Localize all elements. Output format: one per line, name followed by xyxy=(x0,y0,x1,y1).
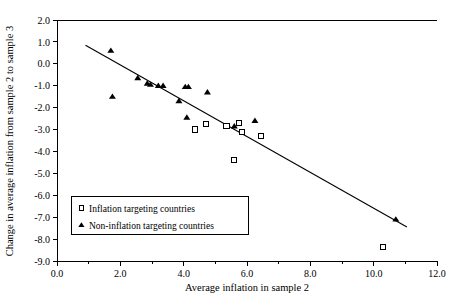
data-point-square xyxy=(232,158,237,163)
y-tick-labels: 2.01.00.0-1.0-2.0-3.0-4.0-5.0-6.0-7.0-8.… xyxy=(34,15,50,267)
data-point-square xyxy=(259,134,264,139)
x-tick-label: 10.0 xyxy=(365,268,383,279)
y-tick-label: -4.0 xyxy=(34,146,50,157)
x-tick-label: 12.0 xyxy=(428,268,446,279)
x-tick-label: 4.0 xyxy=(177,268,190,279)
x-axis-ticks xyxy=(57,261,437,266)
legend-entry-label: Inflation targeting countries xyxy=(89,204,195,214)
x-tick-label: 2.0 xyxy=(114,268,127,279)
data-point-square xyxy=(381,244,386,249)
y-tick-label: -5.0 xyxy=(34,168,50,179)
data-point-square xyxy=(224,124,229,129)
data-point-triangle xyxy=(183,114,190,119)
chart-figure: 2.01.00.0-1.0-2.0-3.0-4.0-5.0-6.0-7.0-8.… xyxy=(0,0,458,306)
y-tick-label: -2.0 xyxy=(34,102,50,113)
y-tick-label: -9.0 xyxy=(34,256,50,267)
y-tick-label: -6.0 xyxy=(34,190,50,201)
y-axis-ticks xyxy=(53,20,57,261)
data-point-triangle xyxy=(109,93,116,98)
x-tick-label: 8.0 xyxy=(304,268,317,279)
data-point-square xyxy=(203,121,208,126)
y-tick-label: -3.0 xyxy=(34,124,50,135)
data-point-triangle xyxy=(251,118,258,123)
x-tick-label: 0.0 xyxy=(51,268,64,279)
y-tick-label: 2.0 xyxy=(38,15,51,26)
y-tick-label: -1.0 xyxy=(34,80,50,91)
chart-legend: Inflation targeting countriesNon-inflati… xyxy=(71,196,248,234)
legend-marker-square xyxy=(79,206,84,211)
y-tick-label: 1.0 xyxy=(38,37,51,48)
x-tick-label: 6.0 xyxy=(241,268,254,279)
y-axis-title: Change in average inflation from sample … xyxy=(4,26,15,257)
y-tick-label: -8.0 xyxy=(34,234,50,245)
data-point-triangle xyxy=(175,98,182,103)
data-point-triangle xyxy=(204,89,211,94)
legend-entry-label: Non-inflation targeting countries xyxy=(89,221,214,231)
data-point-triangle xyxy=(107,47,114,52)
series-filled-triangle xyxy=(107,47,399,221)
y-tick-label: -7.0 xyxy=(34,212,50,223)
x-tick-labels: 0.02.04.06.08.010.012.0 xyxy=(51,268,446,279)
scatter-plot: 2.01.00.0-1.0-2.0-3.0-4.0-5.0-6.0-7.0-8.… xyxy=(0,0,458,306)
data-point-triangle xyxy=(160,83,167,88)
x-axis-title: Average inflation in sample 2 xyxy=(185,282,309,293)
data-point-square xyxy=(192,127,197,132)
data-point-square xyxy=(236,120,241,125)
data-point-square xyxy=(240,129,245,134)
y-tick-label: 0.0 xyxy=(38,58,51,69)
